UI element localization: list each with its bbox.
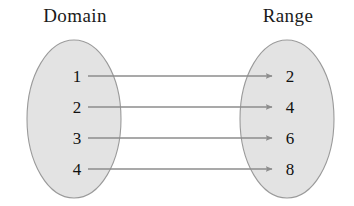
mapping-diagram-container: Domain 1 2 3 4 Range 2 4 6 8: [0, 0, 354, 206]
range-title-label: Range: [263, 5, 314, 26]
range-element-3: 6: [286, 129, 295, 148]
domain-title-label: Domain: [43, 5, 107, 26]
range-element-1: 2: [286, 67, 295, 86]
domain-element-4: 4: [73, 160, 82, 179]
domain-element-3: 3: [73, 129, 82, 148]
domain-element-2: 2: [73, 98, 82, 117]
mapping-diagram-canvas: Domain 1 2 3 4 Range 2 4 6 8: [0, 0, 354, 206]
domain-element-1: 1: [73, 67, 82, 86]
range-element-4: 8: [286, 160, 295, 179]
range-element-2: 4: [286, 98, 295, 117]
